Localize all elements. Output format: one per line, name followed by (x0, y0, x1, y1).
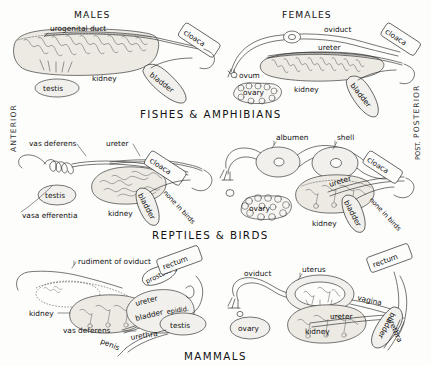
label-kidney-fish-male: kidney (92, 74, 117, 83)
label-shell: shell (337, 133, 354, 142)
urogenital-comparative-diagram: ANTERIOR POSTERIOR POST. MALES FEMALES (0, 0, 431, 366)
label-ovum: ovum (239, 71, 260, 80)
label-testis-mammal: testis (170, 321, 190, 330)
label-none-in-birds-female: none in birds (368, 196, 403, 233)
label-penis: penis (99, 337, 121, 353)
label-kidney-mammal-male: kidney (29, 309, 54, 318)
label-ureter-mammal-female: ureter (330, 312, 354, 321)
fishes-amphibians-male-diagram: testis urogenital duct kidney cloaca bla… (14, 22, 222, 108)
label-kidney-fish-female: kidney (294, 85, 319, 94)
label-oviduct-fish: oviduct (324, 25, 351, 34)
label-testis-fish: testis (43, 84, 63, 93)
section-heading-mammals: MAMMALS (184, 350, 247, 362)
posterior-label-text: POSTERIOR (412, 85, 421, 138)
label-vagina: vagina (357, 293, 383, 307)
posterior-short-axis-label: POST. (414, 141, 422, 160)
posterior-short-label-text: POST. (414, 141, 422, 160)
column-header-females: FEMALES (282, 9, 332, 20)
label-kidney-mammal-female: kidney (305, 327, 330, 336)
mammals-female-diagram: oviduct uterus ovary kidney ureter (228, 243, 413, 353)
label-uterus: uterus (302, 265, 326, 274)
section-heading-reptiles-birds: REPTILES & BIRDS (152, 229, 269, 241)
fishes-amphibians-female-diagram: oviduct kidney ureter ovum (228, 22, 422, 121)
label-ovary-bird: ovary (249, 204, 270, 213)
label-vas-deferens-mammal: vas deferens (63, 326, 111, 335)
label-albumen: albumen (276, 133, 309, 142)
label-ovary-fish: ovary (243, 88, 264, 97)
column-header-males: MALES (74, 9, 110, 20)
reptiles-birds-female-diagram: albumen shell ovary (220, 133, 414, 235)
label-ureter-fish-female: ureter (318, 43, 342, 52)
section-heading-fishes-amphibians: FISHES & AMPHIBIANS (140, 108, 282, 120)
label-testis-reptile: testis (45, 191, 65, 200)
mammals-male-diagram: rudiment of oviduct kidney vas deferens … (16, 245, 206, 356)
label-vasa-efferentia-line1: vasa efferentia (22, 211, 77, 220)
label-none-in-birds-male: none in birds (162, 189, 197, 226)
label-kidney-bird: kidney (312, 219, 337, 228)
anterior-label-text: ANTERIOR (9, 104, 18, 152)
reptiles-birds-male-diagram: vas deferens ureter testis vasa efferent… (19, 139, 212, 228)
label-ovary-mammal: ovary (238, 324, 259, 333)
label-ureter-reptile-male: ureter (106, 139, 130, 148)
label-vas-deferens-reptile: vas deferens (29, 139, 77, 148)
organ-ovum (231, 72, 237, 77)
organ-kidney-mammal-female (288, 305, 366, 343)
label-rudiment-of-oviduct: rudiment of oviduct (78, 257, 151, 266)
anterior-axis-label: ANTERIOR (9, 104, 18, 152)
label-oviduct-mammal: oviduct (244, 269, 271, 278)
label-kidney-reptile-male: kidney (108, 209, 133, 218)
posterior-axis-label: POSTERIOR (412, 85, 421, 138)
label-urogenital-duct: urogenital duct (50, 24, 106, 33)
